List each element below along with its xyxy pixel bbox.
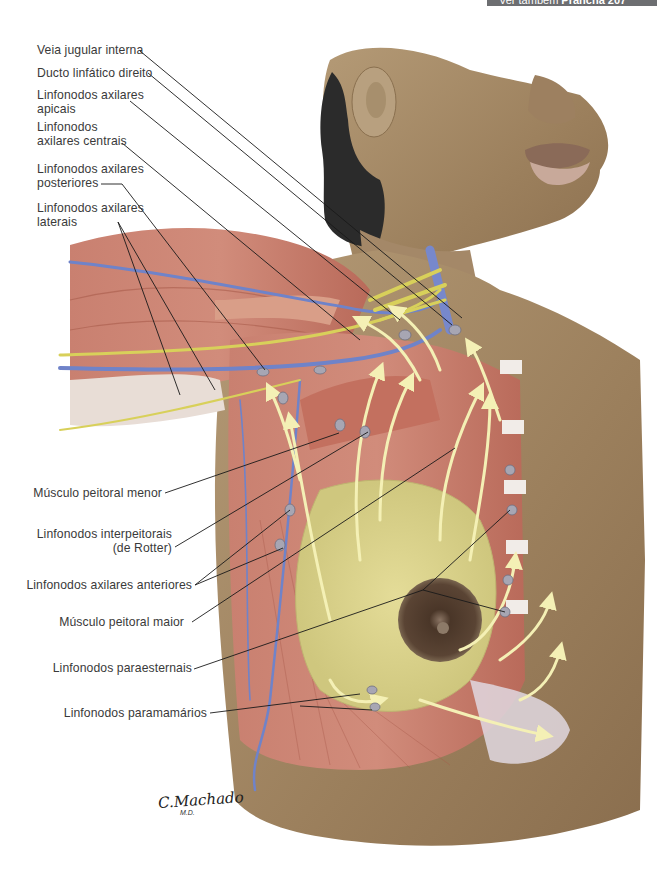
- label-line: Linfonodos interpeitorais: [37, 527, 172, 541]
- label-veia-jugular-interna: Veia jugular interna: [37, 43, 143, 57]
- label-line: apicais: [37, 102, 144, 116]
- label-linfonodos-axilares-posteriores: Linfonodos axilares posteriores: [37, 162, 144, 190]
- label-line: (de Rotter): [37, 541, 172, 555]
- nipple: [437, 622, 449, 634]
- label-ducto-linfatico-direito: Ducto linfático direito: [37, 66, 152, 80]
- label-line: Músculo peitoral menor: [33, 486, 162, 500]
- label-linfonodos-axilares-anteriores: Linfonodos axilares anteriores: [26, 578, 192, 592]
- label-line: posteriores: [37, 176, 144, 190]
- label-line: Linfonodos axilares: [37, 162, 144, 176]
- label-musculo-peitoral-maior: Músculo peitoral maior: [59, 615, 184, 629]
- label-linfonodos-paraesternais: Linfonodos paraesternais: [53, 661, 192, 675]
- label-line: axilares centrais: [37, 134, 127, 148]
- areola: [398, 578, 482, 662]
- label-line: Veia jugular interna: [37, 43, 143, 57]
- label-linfonodos-paramamarios: Linfonodos paramamários: [64, 706, 207, 720]
- label-line: Linfonodos axilares: [37, 201, 144, 215]
- label-line: Linfonodos paraesternais: [53, 661, 192, 675]
- label-line: laterais: [37, 215, 144, 229]
- label-line: Linfonodos: [37, 120, 127, 134]
- label-linfonodos-axilares-centrais: Linfonodos axilares centrais: [37, 120, 127, 148]
- label-line: Linfonodos axilares anteriores: [26, 578, 192, 592]
- artist-signature-credential: M.D.: [180, 809, 195, 816]
- label-linfonodos-axilares-laterais: Linfonodos axilares laterais: [37, 201, 144, 229]
- label-linfonodos-axilares-apicais: Linfonodos axilares apicais: [37, 88, 144, 116]
- label-line: Ducto linfático direito: [37, 66, 152, 80]
- label-linfonodos-interpeitorais: Linfonodos interpeitorais (de Rotter): [37, 527, 172, 555]
- label-musculo-peitoral-menor: Músculo peitoral menor: [33, 486, 162, 500]
- label-line: Linfonodos paramamários: [64, 706, 207, 720]
- label-line: Linfonodos axilares: [37, 88, 144, 102]
- label-line: Músculo peitoral maior: [59, 615, 184, 629]
